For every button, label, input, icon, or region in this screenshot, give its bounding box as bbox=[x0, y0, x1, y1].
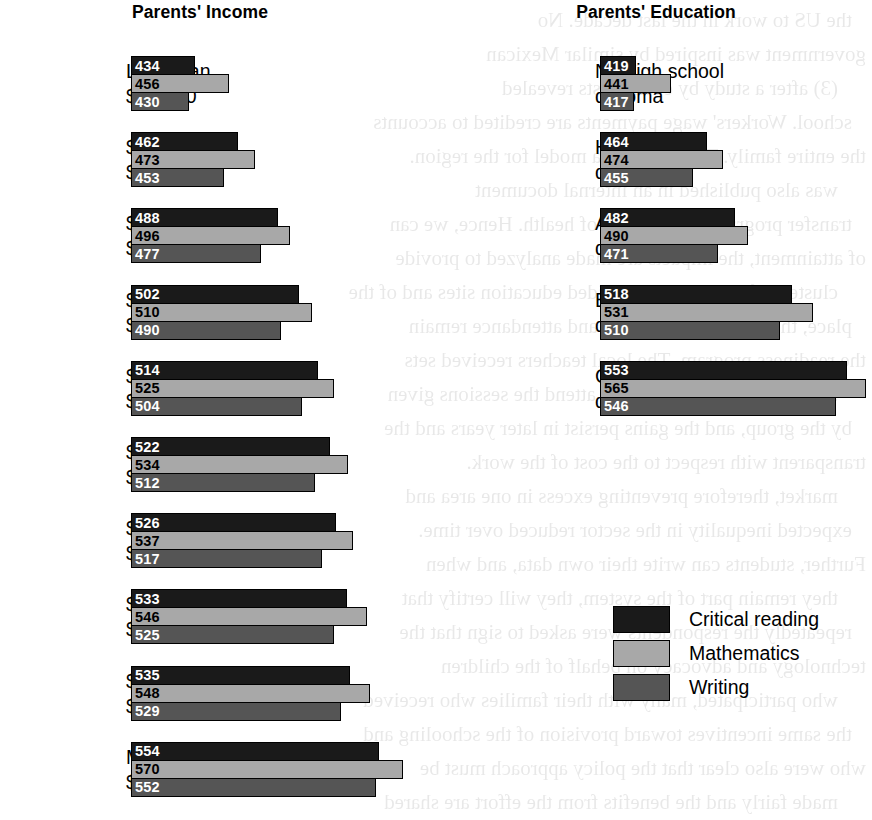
bar-writing: 525 bbox=[131, 625, 334, 644]
bar-critical-reading: 518 bbox=[600, 285, 792, 304]
bar-stack: 502510490 bbox=[131, 285, 312, 339]
bar-value-label: 546 bbox=[604, 399, 629, 414]
bar-critical-reading: 419 bbox=[600, 56, 636, 75]
bar-stack: 535548529 bbox=[131, 666, 370, 720]
bar-value-label: 456 bbox=[135, 76, 160, 91]
legend-label: Critical reading bbox=[689, 608, 819, 631]
bar-mathematics: 534 bbox=[131, 455, 348, 474]
bar-critical-reading: 514 bbox=[131, 361, 318, 380]
panel-parents-income: Parents' Income Less than$20,00043445643… bbox=[0, 0, 436, 820]
bar-writing: 529 bbox=[131, 702, 341, 721]
bar-value-label: 512 bbox=[135, 475, 160, 490]
bar-mathematics: 570 bbox=[131, 760, 403, 779]
bar-stack: 518531510 bbox=[600, 285, 813, 339]
chart-legend: Critical readingMathematicsWriting bbox=[613, 602, 863, 704]
bar-value-label: 552 bbox=[135, 780, 160, 795]
bar-value-label: 417 bbox=[604, 94, 629, 109]
legend-swatch-mathematics bbox=[613, 640, 670, 667]
bar-mathematics: 565 bbox=[600, 379, 866, 398]
panel-title-parents-education: Parents' Education bbox=[456, 2, 856, 23]
bar-value-label: 553 bbox=[604, 363, 629, 378]
bar-writing: 517 bbox=[131, 549, 322, 568]
bar-stack: 554570552 bbox=[131, 742, 403, 796]
bar-value-label: 441 bbox=[604, 76, 629, 91]
bar-critical-reading: 464 bbox=[600, 132, 707, 151]
bar-mathematics: 456 bbox=[131, 74, 229, 93]
bar-stack: 462473453 bbox=[131, 132, 255, 186]
bar-critical-reading: 482 bbox=[600, 208, 735, 227]
legend-swatch-writing bbox=[613, 674, 670, 701]
bar-value-label: 514 bbox=[135, 363, 160, 378]
bar-value-label: 518 bbox=[604, 287, 629, 302]
bar-writing: 504 bbox=[131, 397, 302, 416]
bar-value-label: 554 bbox=[135, 744, 160, 759]
bar-critical-reading: 488 bbox=[131, 208, 278, 227]
bar-value-label: 548 bbox=[135, 686, 160, 701]
bar-mathematics: 531 bbox=[600, 303, 813, 322]
bar-critical-reading: 535 bbox=[131, 666, 350, 685]
bar-value-label: 570 bbox=[135, 762, 160, 777]
bar-mathematics: 537 bbox=[131, 531, 353, 550]
bar-value-label: 535 bbox=[135, 668, 160, 683]
bar-value-label: 419 bbox=[604, 58, 629, 73]
legend-item-mathematics: Mathematics bbox=[613, 636, 863, 670]
bar-writing: 417 bbox=[600, 92, 634, 111]
bar-value-label: 510 bbox=[135, 305, 160, 320]
bar-writing: 512 bbox=[131, 473, 315, 492]
bar-value-label: 525 bbox=[135, 381, 160, 396]
bar-value-label: 455 bbox=[604, 170, 629, 185]
bar-stack: 514525504 bbox=[131, 361, 334, 415]
bar-critical-reading: 522 bbox=[131, 437, 330, 456]
bar-value-label: 565 bbox=[604, 381, 629, 396]
bar-value-label: 462 bbox=[135, 134, 160, 149]
bar-critical-reading: 502 bbox=[131, 285, 299, 304]
bar-value-label: 490 bbox=[135, 323, 160, 338]
bar-value-label: 488 bbox=[135, 211, 160, 226]
bar-mathematics: 473 bbox=[131, 150, 255, 169]
bar-stack: 434456430 bbox=[131, 56, 229, 110]
bar-critical-reading: 553 bbox=[600, 361, 847, 380]
bar-mathematics: 548 bbox=[131, 684, 370, 703]
bar-critical-reading: 434 bbox=[131, 56, 195, 75]
bar-value-label: 533 bbox=[135, 592, 160, 607]
bar-mathematics: 510 bbox=[131, 303, 312, 322]
bar-value-label: 537 bbox=[135, 533, 160, 548]
bar-writing: 490 bbox=[131, 321, 281, 340]
bar-writing: 510 bbox=[600, 321, 780, 340]
bar-value-label: 546 bbox=[135, 610, 160, 625]
bar-writing: 455 bbox=[600, 168, 693, 187]
bar-value-label: 496 bbox=[135, 229, 160, 244]
bar-value-label: 453 bbox=[135, 170, 160, 185]
bar-writing: 552 bbox=[131, 778, 376, 797]
bar-mathematics: 525 bbox=[131, 379, 334, 398]
bar-value-label: 464 bbox=[604, 134, 629, 149]
bar-mathematics: 490 bbox=[600, 226, 748, 245]
bar-mathematics: 546 bbox=[131, 607, 367, 626]
bar-writing: 453 bbox=[131, 168, 224, 187]
bar-stack: 526537517 bbox=[131, 513, 353, 567]
bar-critical-reading: 462 bbox=[131, 132, 238, 151]
bar-writing: 471 bbox=[600, 244, 718, 263]
bar-value-label: 504 bbox=[135, 399, 160, 414]
bar-value-label: 471 bbox=[604, 247, 629, 262]
bar-stack: 488496477 bbox=[131, 208, 290, 262]
bar-value-label: 434 bbox=[135, 58, 160, 73]
bar-stack: 482490471 bbox=[600, 208, 748, 262]
bar-mathematics: 474 bbox=[600, 150, 723, 169]
panel-title-parents-income: Parents' Income bbox=[0, 2, 400, 23]
bar-critical-reading: 526 bbox=[131, 513, 336, 532]
bar-writing: 430 bbox=[131, 92, 189, 111]
bar-value-label: 473 bbox=[135, 152, 160, 167]
bar-critical-reading: 533 bbox=[131, 589, 347, 608]
bar-writing: 546 bbox=[600, 397, 836, 416]
legend-item-writing: Writing bbox=[613, 670, 863, 704]
bar-value-label: 525 bbox=[135, 628, 160, 643]
bar-value-label: 477 bbox=[135, 247, 160, 262]
legend-swatch-critical-reading bbox=[613, 606, 670, 633]
bar-mathematics: 441 bbox=[600, 74, 671, 93]
bar-value-label: 529 bbox=[135, 704, 160, 719]
bar-value-label: 534 bbox=[135, 457, 160, 472]
bar-stack: 553565546 bbox=[600, 361, 866, 415]
bar-value-label: 502 bbox=[135, 287, 160, 302]
bar-value-label: 517 bbox=[135, 551, 160, 566]
